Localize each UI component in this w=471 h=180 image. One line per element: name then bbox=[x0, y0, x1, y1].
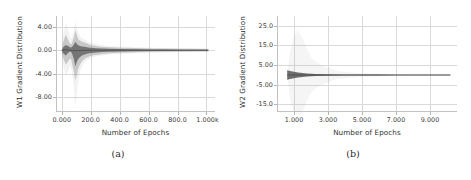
panel-a-xtick-label: 1.000k bbox=[196, 116, 218, 124]
xtick-mark bbox=[120, 112, 121, 115]
panel-b-xtick-label: 1.000 bbox=[285, 116, 304, 124]
halo-envelope bbox=[62, 21, 209, 107]
xtick-mark bbox=[328, 112, 329, 115]
panel-a-ytick-label: 0.00 bbox=[38, 46, 52, 54]
panel-a-ytick-label: 4.00 bbox=[38, 23, 52, 31]
panel-b-ytick-label: 15.0 bbox=[259, 41, 273, 49]
panel-b-plot-area: 25.0 15.0 5.00 -5.00 -15.0 1.000 3.000 5… bbox=[277, 16, 457, 112]
panel-a-xtick-label: 200.0 bbox=[81, 116, 100, 124]
panel-a-x-axis-title: Number of Epochs bbox=[56, 128, 215, 137]
xtick-mark bbox=[91, 112, 92, 115]
panel-b-ytick-label: 25.0 bbox=[259, 22, 273, 30]
panel-a: W1 Gradient Distribution bbox=[0, 0, 236, 180]
xtick-mark bbox=[396, 112, 397, 115]
xtick-mark bbox=[430, 112, 431, 115]
panel-b-xtick-label: 5.000 bbox=[353, 116, 372, 124]
panel-a-xtick-label: 800.0 bbox=[168, 116, 187, 124]
panel-b-data-series bbox=[277, 16, 457, 112]
xtick-mark bbox=[149, 112, 150, 115]
panel-b: W2 Gradient Distribution bbox=[235, 0, 471, 180]
xtick-mark bbox=[294, 112, 295, 115]
panel-a-xtick-label: 400.0 bbox=[110, 116, 129, 124]
panel-b-ytick-label: -5.00 bbox=[256, 81, 273, 89]
panel-a-xtick-label: 600.0 bbox=[139, 116, 158, 124]
panel-b-caption: (b) bbox=[235, 148, 471, 159]
halo-envelope bbox=[287, 30, 450, 112]
panel-b-ytick-label: 5.00 bbox=[259, 61, 273, 69]
xtick-mark bbox=[362, 112, 363, 115]
panel-a-y-axis-title: W1 Gradient Distribution bbox=[14, 2, 26, 122]
panel-b-xtick-label: 7.000 bbox=[387, 116, 406, 124]
outer-envelope bbox=[62, 30, 209, 80]
panel-a-ytick-label: -4.00 bbox=[35, 70, 52, 78]
panel-b-xtick-label: 9.000 bbox=[421, 116, 440, 124]
panel-b-x-axis-title: Number of Epochs bbox=[277, 128, 457, 137]
panel-a-caption: (a) bbox=[0, 148, 236, 159]
panel-b-y-axis-title: W2 Gradient Distribution bbox=[237, 2, 249, 122]
figure-root: W1 Gradient Distribution bbox=[0, 0, 471, 180]
panel-a-ytick-label: -8.00 bbox=[35, 93, 52, 101]
xtick-mark bbox=[62, 112, 63, 115]
panel-a-data-series bbox=[56, 16, 215, 112]
xtick-mark bbox=[178, 112, 179, 115]
panel-b-ytick-label: -15.0 bbox=[256, 100, 273, 108]
xtick-mark bbox=[206, 112, 207, 115]
panel-a-plot-area: 4.00 0.00 -4.00 -8.00 0.000 200.0 400.0 … bbox=[56, 16, 215, 112]
panel-a-xtick-label: 0.000 bbox=[52, 116, 71, 124]
panel-b-xtick-label: 3.000 bbox=[319, 116, 338, 124]
